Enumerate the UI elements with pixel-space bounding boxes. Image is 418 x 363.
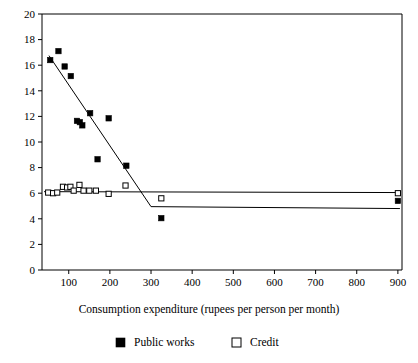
data-point-public-works: [80, 123, 85, 128]
x-tick-label: 900: [390, 276, 407, 288]
y-tick-label: 12: [24, 110, 35, 122]
data-point-public-works: [106, 116, 111, 121]
data-point-credit: [77, 182, 82, 187]
x-tick-label: 200: [102, 276, 119, 288]
data-point-credit: [87, 188, 92, 193]
y-tick-label: 4: [30, 213, 36, 225]
y-tick-label: 14: [24, 85, 36, 97]
y-tick-label: 0: [30, 264, 36, 276]
data-point-credit: [93, 188, 98, 193]
legend-label-public-works: Public works: [134, 336, 195, 348]
data-point-credit: [159, 196, 164, 201]
legend-marker-credit: [232, 338, 241, 347]
data-point-public-works: [87, 111, 92, 116]
y-tick-label: 10: [24, 136, 36, 148]
y-tick-label: 18: [24, 33, 36, 45]
data-point-credit: [55, 190, 60, 195]
data-point-public-works: [68, 73, 73, 78]
x-tick-label: 800: [348, 276, 365, 288]
x-tick-label: 300: [143, 276, 160, 288]
x-tick-label: 400: [184, 276, 201, 288]
data-point-credit: [81, 188, 86, 193]
x-tick-label: 700: [307, 276, 324, 288]
x-tick-label: 600: [266, 276, 283, 288]
scatter-chart: 02468101214161820 1002003004005006007008…: [0, 0, 418, 363]
data-point-credit: [395, 191, 400, 196]
data-point-public-works: [124, 163, 129, 168]
y-tick-label: 6: [30, 187, 36, 199]
data-point-credit: [71, 188, 76, 193]
y-tick-label: 20: [24, 8, 36, 20]
data-point-public-works: [48, 57, 53, 62]
x-axis-title: Consumption expenditure (rupees per pers…: [79, 303, 340, 316]
data-point-credit: [123, 183, 128, 188]
x-tick-label: 500: [225, 276, 242, 288]
data-point-public-works: [395, 198, 400, 203]
legend-marker-public-works: [116, 338, 125, 347]
legend-label-credit: Credit: [250, 336, 280, 348]
y-tick-label: 16: [24, 59, 36, 71]
data-point-public-works: [56, 48, 61, 53]
x-tick-label: 100: [60, 276, 77, 288]
chart-canvas: 02468101214161820 1002003004005006007008…: [0, 0, 418, 363]
data-point-public-works: [159, 215, 164, 220]
data-point-public-works: [95, 157, 100, 162]
y-tick-label: 2: [30, 238, 36, 250]
y-tick-label: 8: [30, 161, 36, 173]
data-point-credit: [46, 190, 51, 195]
data-point-public-works: [62, 64, 67, 69]
data-point-credit: [106, 191, 111, 196]
